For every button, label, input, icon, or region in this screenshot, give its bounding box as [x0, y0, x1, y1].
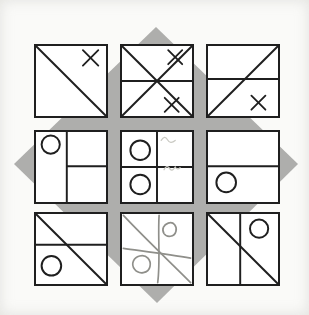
pencil-stroke [163, 223, 176, 237]
cell-drawing-r2c2 [122, 132, 192, 202]
circle-mark [250, 220, 268, 238]
matrix-cell-r1c1 [34, 44, 108, 118]
matrix-cell-r2c3 [206, 130, 280, 204]
cell-drawing-r1c3 [208, 46, 278, 116]
puzzle-grid [0, 0, 309, 315]
matrix-cell-r3c2 [120, 212, 194, 286]
cell-drawing-r1c1 [36, 46, 106, 116]
circle-mark [130, 175, 150, 195]
matrix-cell-r1c2 [120, 44, 194, 118]
x-mark [251, 96, 265, 110]
x-mark [165, 98, 179, 112]
matrix-cell-r2c1 [34, 130, 108, 204]
scanned-puzzle-page [0, 0, 309, 315]
circle-mark [42, 256, 62, 276]
matrix-cell-r2c2 [120, 130, 194, 204]
cell-drawing-r3c1 [36, 214, 106, 284]
pencil-stroke [161, 137, 175, 142]
cell-drawing-r3c3 [208, 214, 278, 284]
matrix-cell-r3c1 [34, 212, 108, 286]
circle-mark [216, 173, 236, 193]
divider-line [36, 46, 106, 116]
matrix-cell-r3c3 [206, 212, 280, 286]
circle-mark [130, 140, 150, 160]
circle-mark [42, 136, 60, 154]
x-mark [83, 50, 98, 65]
divider-line [208, 46, 278, 116]
cell-drawing-r2c3 [208, 132, 278, 202]
cell-drawing-r1c2 [122, 46, 192, 116]
matrix-cell-r1c3 [206, 44, 280, 118]
pencil-stroke [133, 256, 150, 273]
pencil-stroke [158, 215, 159, 282]
cell-drawing-r3c2 [122, 214, 192, 284]
cell-drawing-r2c1 [36, 132, 106, 202]
